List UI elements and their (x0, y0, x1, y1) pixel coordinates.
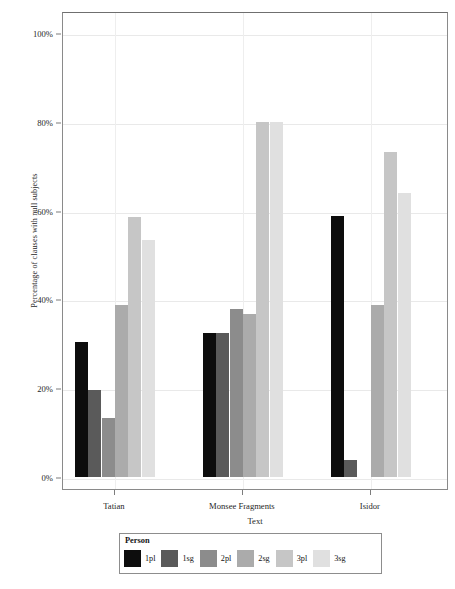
bar (243, 314, 256, 477)
bar (331, 216, 344, 477)
legend-item: 2sg (237, 550, 269, 567)
legend-label: 1pl (145, 554, 155, 563)
legend-swatch (237, 550, 254, 567)
y-axis-tick-mark (56, 122, 61, 123)
legend-item: 2pl (200, 550, 231, 567)
y-axis-title: Percentage of clauses with null subjects (30, 121, 39, 361)
y-axis-tick-label: 100% (11, 29, 53, 39)
y-axis-tick-mark (56, 300, 61, 301)
legend-label: 2pl (221, 554, 231, 563)
bar (384, 152, 397, 477)
bar (344, 460, 357, 477)
bar (88, 390, 101, 477)
y-axis-tick-label: 20% (11, 384, 53, 394)
legend-swatch (276, 550, 293, 567)
x-axis-tick-mark (242, 490, 243, 495)
y-axis-tick-mark (56, 211, 61, 212)
x-axis-tick-mark (114, 490, 115, 495)
bar (256, 122, 269, 477)
bar (102, 418, 115, 477)
legend-swatch (200, 550, 217, 567)
bar (230, 309, 243, 477)
bar (128, 217, 141, 477)
bar (115, 305, 128, 477)
legend-title: Person (125, 536, 150, 545)
y-axis-tick-mark (56, 389, 61, 390)
bar (216, 333, 229, 477)
legend-item: 1sg (161, 550, 193, 567)
x-axis-title: Text (62, 516, 448, 526)
legend-swatch (124, 550, 141, 567)
bar-chart: Percentage of clauses with null subjects… (0, 0, 455, 589)
plot-area (62, 12, 448, 490)
legend-swatch (161, 550, 178, 567)
bar (398, 193, 411, 477)
legend-label: 3pl (297, 554, 307, 563)
y-axis-tick-label: 40% (11, 295, 53, 305)
bar (270, 122, 283, 477)
bars-layer (63, 13, 447, 489)
y-axis-tick-mark (56, 34, 61, 35)
x-axis-tick-mark (370, 490, 371, 495)
x-axis-tick-label: Isidor (360, 501, 380, 511)
y-axis-tick-mark (56, 478, 61, 479)
y-axis-tick-label: 0% (11, 473, 53, 483)
legend-label: 1sg (182, 554, 193, 563)
legend-items: 1pl1sg2pl2sg3pl3sg (124, 550, 378, 567)
legend-item: 3sg (313, 550, 345, 567)
y-axis-tick-label: 60% (11, 207, 53, 217)
legend-item: 3pl (276, 550, 307, 567)
x-axis-tick-label: Monsee Fragments (209, 501, 275, 511)
legend-swatch (313, 550, 330, 567)
bar (75, 342, 88, 477)
bar (371, 305, 384, 477)
bar (203, 333, 216, 477)
x-axis-tick-label: Tatian (103, 501, 124, 511)
y-axis-tick-label: 80% (11, 118, 53, 128)
legend-label: 2sg (258, 554, 269, 563)
bar (142, 240, 155, 477)
legend: Person 1pl1sg2pl2sg3pl3sg (119, 533, 382, 574)
legend-item: 1pl (124, 550, 155, 567)
legend-label: 3sg (334, 554, 345, 563)
